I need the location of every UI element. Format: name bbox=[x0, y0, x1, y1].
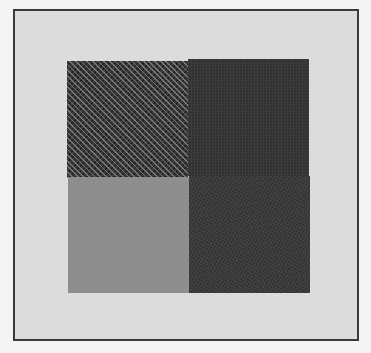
quadrant-bottom-right-dark-noise-texture bbox=[189, 176, 310, 293]
quadrant-bottom-left-uniform-gray bbox=[68, 177, 189, 293]
quadrant-top-right-dark-noise-texture bbox=[188, 59, 309, 176]
quadrant-top-left-herringbone-texture bbox=[67, 61, 188, 178]
